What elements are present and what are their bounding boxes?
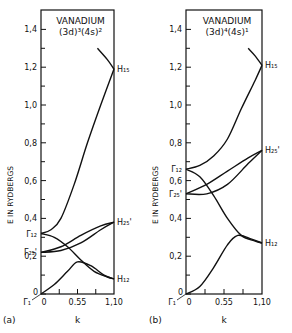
panel-subtitle: (3d)⁴(4s)¹ (205, 27, 249, 37)
point-label-h25: H₂₅' (117, 218, 132, 227)
y-tick-label: 0,6 (24, 177, 37, 186)
y-tick-label: 0,4 (24, 214, 37, 223)
point-label-h25: H₂₅' (265, 146, 280, 155)
y-tick-label: 1,4 (169, 25, 182, 34)
panel-subtitle: (3d)³(4s)² (59, 27, 103, 37)
point-label-gamma25: Γ₂₅' (24, 248, 37, 257)
point-label-h12: H₁₂ (117, 275, 129, 284)
y-tick-label: 1,2 (24, 63, 37, 72)
x-tick-label: 0.55 (69, 298, 87, 307)
x-tick-label: 0.55 (215, 298, 233, 307)
y-tick-label: 0,4 (169, 214, 182, 223)
y-tick-label: 1,2 (169, 63, 182, 72)
x-tick-label: 0 (41, 298, 46, 307)
band-curve (41, 222, 114, 252)
band-structure-figure: 0,20,40,60,81,01,21,4000.551,10VANADIUM(… (0, 0, 292, 333)
panel-label: (a) (3, 315, 16, 325)
y-tick-label: 0,6 (169, 177, 182, 186)
point-label-gamma12: Γ₁₂ (171, 165, 182, 174)
x-axis-label: k (75, 315, 81, 325)
point-label-gamma25: Γ₂₅' (169, 190, 182, 199)
band-curve (41, 69, 114, 233)
y-tick-label: 0,8 (24, 139, 37, 148)
band-curve (41, 234, 114, 279)
y-tick-label: 0 (33, 288, 38, 297)
y-tick-label: 1,4 (24, 25, 37, 34)
x-tick-label: 1,10 (105, 298, 123, 307)
band-curve (186, 235, 262, 294)
y-tick-label: 1,0 (169, 101, 182, 110)
panel-title: VANADIUM (56, 16, 105, 26)
y-tick-label: 0,2 (169, 252, 182, 261)
x-tick-label: 1,10 (253, 298, 271, 307)
y-axis-label: E IN RYDBERGS (151, 166, 160, 224)
point-label-h15: H₁₅ (265, 61, 277, 70)
y-axis-label: E IN RYDBERGS (6, 166, 15, 224)
y-tick-label: 0 (178, 288, 183, 297)
panel-title: VANADIUM (203, 16, 252, 26)
point-label-gamma1: Γ₁ (168, 298, 176, 307)
band-curve (186, 169, 262, 243)
y-tick-label: 0,8 (169, 139, 182, 148)
x-tick-label: 0 (186, 298, 191, 307)
point-label-h12: H₁₂ (265, 239, 277, 248)
band-curve (248, 48, 262, 65)
x-axis-label: k (221, 315, 227, 325)
panel-label: (b) (149, 315, 162, 325)
y-tick-label: 1,0 (24, 101, 37, 110)
point-label-gamma1: Γ₁ (23, 298, 31, 307)
point-label-gamma12: Γ₁₂ (26, 230, 37, 239)
point-label-h15: H₁₅ (117, 65, 129, 74)
band-curve (97, 48, 114, 69)
band-curve (186, 65, 262, 169)
